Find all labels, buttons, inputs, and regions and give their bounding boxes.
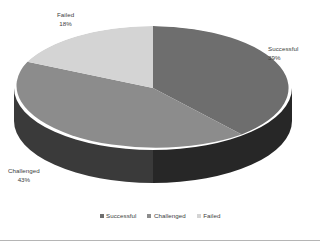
pie-chart-figure: Failed 18% Successful 39% Challenged 43%…	[0, 0, 320, 245]
pie-label-failed-value: 18%	[57, 20, 74, 29]
pie-label-successful-value: 39%	[268, 54, 298, 63]
legend-label-challenged: Challenged	[154, 213, 186, 219]
pie-label-failed-name: Failed	[57, 11, 74, 20]
pie-chart-graphic	[0, 0, 320, 245]
legend-item-successful[interactable]: Successful	[100, 213, 137, 219]
legend-label-successful: Successful	[106, 213, 136, 219]
pie-label-challenged-name: Challenged	[8, 167, 40, 176]
pie-label-challenged: Challenged 43%	[8, 167, 40, 185]
chart-legend: Successful Challenged Failed	[0, 213, 320, 219]
legend-swatch-icon-successful	[100, 214, 104, 218]
legend-item-challenged[interactable]: Challenged	[147, 213, 185, 219]
pie-top-face	[16, 26, 288, 148]
legend-item-failed[interactable]: Failed	[197, 213, 221, 219]
pie-label-successful: Successful 39%	[268, 45, 298, 63]
pie-label-successful-name: Successful	[268, 45, 298, 54]
legend-swatch-icon-challenged	[147, 214, 151, 218]
pie-label-failed: Failed 18%	[57, 11, 74, 29]
bottom-divider	[0, 240, 320, 241]
pie-label-challenged-value: 43%	[8, 176, 40, 185]
legend-swatch-icon-failed	[197, 214, 201, 218]
legend-label-failed: Failed	[203, 213, 220, 219]
